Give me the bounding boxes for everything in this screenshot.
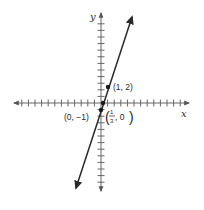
svg-text:): ) [129, 109, 134, 125]
point-1-2 [106, 85, 110, 89]
x-axis-label: x [181, 108, 187, 119]
coordinate-plane: y x (1, 2) (0, −1) ( 1 3 , 0 ) [0, 0, 204, 210]
frac-rest: , 0 [115, 112, 125, 122]
frac-denominator: 3 [110, 118, 114, 124]
label-point-0-m1: (0, −1) [64, 112, 89, 122]
point-y-intercept [99, 108, 103, 112]
point-x-intercept [101, 101, 105, 105]
label-point-1-2: (1, 2) [113, 82, 133, 92]
label-point-one-third-0: ( 1 3 , 0 ) [105, 109, 134, 125]
frac-numerator: 1 [110, 109, 114, 115]
y-axis-label: y [89, 11, 96, 22]
